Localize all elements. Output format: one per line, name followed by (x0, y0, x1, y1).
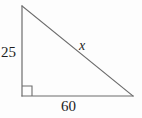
triangle-figure: 25 60 x (0, 0, 142, 118)
vertical-leg-label: 25 (1, 45, 16, 60)
right-angle-marker-icon (22, 86, 32, 96)
hypotenuse-label: x (79, 39, 85, 53)
horizontal-leg-label: 60 (61, 99, 76, 114)
hypotenuse-line (22, 6, 133, 96)
